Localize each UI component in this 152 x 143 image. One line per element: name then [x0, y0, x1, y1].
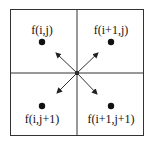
- label-top-left: f(i,j): [31, 24, 53, 36]
- point-top-left: [39, 39, 45, 45]
- point-bottom-left: [39, 103, 45, 109]
- arrow-top-left: [56, 53, 77, 73]
- arrow-bottom-right: [77, 73, 97, 94]
- arrow-top-right: [77, 53, 98, 73]
- point-top-right: [108, 39, 114, 45]
- arrow-bottom-left: [57, 73, 77, 93]
- label-bottom-left: f(i,j+1): [25, 113, 59, 125]
- label-bottom-right: f(i+1,j+1): [87, 113, 134, 125]
- point-bottom-right: [108, 103, 114, 109]
- label-top-right: f(i+1,j): [94, 24, 128, 36]
